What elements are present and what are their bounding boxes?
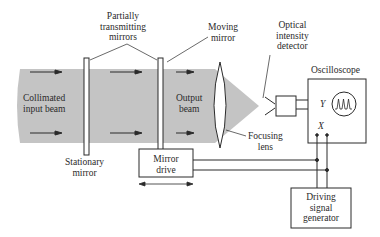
label-line: signal [291, 203, 351, 214]
label-oscilloscope: Oscilloscope [311, 65, 360, 76]
label-line: mirror [208, 33, 238, 44]
label-x-input: X [318, 121, 324, 132]
label-line: mirror [65, 168, 104, 179]
label-line: input beam [23, 104, 65, 115]
label-moving-mirror: Moving mirror [208, 22, 238, 43]
label-partially-transmitting-mirrors: Partially transmitting mirrors [100, 11, 146, 43]
label-line: generator [291, 213, 351, 224]
label-optical-intensity-detector: Optical intensity detector [276, 20, 309, 52]
label-line: intensity [276, 31, 309, 42]
label-mirror-drive: Mirror drive [147, 154, 185, 175]
stationary-mirror [84, 58, 89, 155]
mirror-motion-arrow-icon [139, 182, 193, 186]
label-line: Collimated [23, 93, 65, 104]
label-line: Output [176, 93, 202, 104]
label-line: Driving [291, 192, 351, 203]
label-output-beam: Output beam [176, 93, 202, 114]
label-line: Optical [276, 20, 309, 31]
label-line: Partially [100, 11, 146, 22]
label-line: transmitting [100, 22, 146, 33]
label-focusing-lens: Focusing lens [248, 131, 283, 152]
label-line: beam [176, 104, 202, 115]
optical-intensity-detector [265, 96, 296, 116]
label-line: lens [248, 142, 283, 153]
label-line: Stationary [65, 157, 104, 168]
label-collimated-input-beam: Collimated input beam [23, 93, 65, 114]
label-stationary-mirror: Stationary mirror [65, 157, 104, 178]
label-driving-signal-generator: Driving signal generator [291, 192, 351, 224]
label-line: mirrors [100, 32, 146, 43]
label-line: Focusing [248, 131, 283, 142]
label-line: Moving [208, 22, 238, 33]
label-line: Mirror [147, 154, 185, 165]
label-line: drive [147, 165, 185, 176]
moving-mirror [158, 58, 163, 161]
label-line: detector [276, 41, 309, 52]
label-y-input: Y [320, 99, 325, 110]
